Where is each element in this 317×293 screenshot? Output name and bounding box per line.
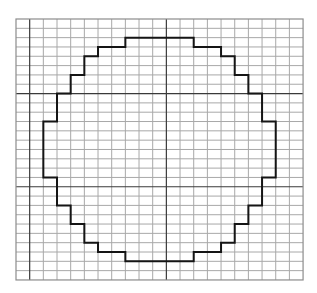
background <box>0 0 317 293</box>
grid-diagram <box>0 0 317 293</box>
